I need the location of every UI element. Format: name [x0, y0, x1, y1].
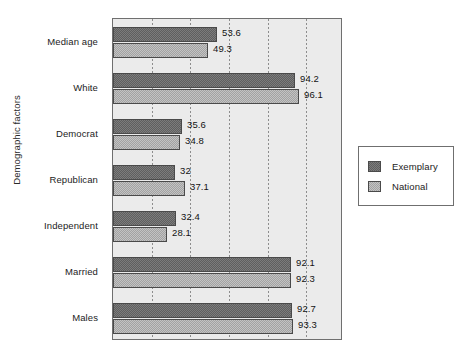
bar-exemplary	[113, 165, 175, 180]
bar-national	[113, 319, 293, 334]
y-axis-tick-label: Republican	[49, 174, 98, 185]
plot-area	[112, 18, 342, 340]
y-axis-tick-label: Independent	[44, 220, 98, 231]
bar-value-label: 32.4	[181, 212, 200, 222]
bar-national	[113, 43, 208, 58]
bar-national	[113, 89, 299, 104]
bar-national	[113, 135, 180, 150]
legend-item-exemplary: Exemplary	[368, 160, 438, 172]
bar-value-label: 32	[180, 166, 191, 176]
y-axis-tick-label: Married	[65, 266, 98, 277]
legend-label-national: National	[392, 181, 428, 192]
legend-item-national: National	[368, 180, 428, 192]
bar-exemplary	[113, 211, 176, 226]
y-axis-tick-label: Males	[72, 312, 98, 323]
bar-national	[113, 227, 167, 242]
legend-swatch-national-icon	[368, 181, 381, 192]
y-axis-tick-label: White	[73, 82, 98, 93]
bar-value-label: 37.1	[190, 182, 209, 192]
bar-value-label: 92.1	[296, 258, 315, 268]
bar-exemplary	[113, 27, 217, 42]
legend: Exemplary National	[358, 146, 454, 206]
y-axis-tick-label: Median age	[47, 36, 98, 47]
y-axis-tick-labels: Median ageWhiteDemocratRepublicanIndepen…	[0, 18, 105, 340]
gridline	[306, 19, 307, 339]
bar-value-label: 96.1	[304, 90, 323, 100]
bar-value-label: 35.6	[187, 120, 206, 130]
bar-value-label: 92.3	[296, 274, 315, 284]
legend-label-exemplary: Exemplary	[392, 161, 438, 172]
bar-national	[113, 273, 291, 288]
bar-exemplary	[113, 303, 292, 318]
y-axis-tick-label: Democrat	[56, 128, 98, 139]
bar-value-label: 93.3	[298, 320, 317, 330]
bar-exemplary	[113, 119, 182, 134]
bar-value-label: 28.1	[172, 228, 191, 238]
bar-value-label: 92.7	[297, 304, 316, 314]
bar-value-label: 34.8	[185, 136, 204, 146]
gridline	[268, 19, 269, 339]
gridline	[229, 19, 230, 339]
plot-inner	[113, 19, 341, 339]
bar-value-label: 53.6	[222, 28, 241, 38]
legend-swatch-exemplary-icon	[368, 161, 381, 172]
bar-chart: Demographic factors Median ageWhiteDemoc…	[0, 0, 459, 343]
bar-exemplary	[113, 73, 295, 88]
bar-value-label: 49.3	[213, 44, 232, 54]
bar-national	[113, 181, 185, 196]
bar-value-label: 94.2	[300, 74, 319, 84]
gridline	[190, 19, 191, 339]
bar-exemplary	[113, 257, 291, 272]
